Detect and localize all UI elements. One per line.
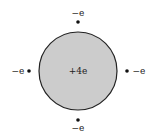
electron-label-right: −e bbox=[133, 67, 146, 76]
electron-label-left: −e bbox=[12, 67, 25, 76]
nucleus-charge-label: +4e bbox=[69, 67, 88, 76]
electron-dot-bottom bbox=[76, 118, 80, 122]
electron-label-bottom: −e bbox=[72, 124, 85, 133]
electron-label-top: −e bbox=[72, 9, 85, 18]
electron-dot-top bbox=[76, 20, 80, 24]
atom-diagram: +4e −e −e −e −e bbox=[0, 0, 154, 138]
electron-dot-left bbox=[27, 69, 31, 73]
electron-dot-right bbox=[125, 69, 129, 73]
